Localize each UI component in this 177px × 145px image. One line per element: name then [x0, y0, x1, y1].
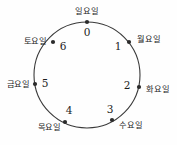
cycle-node-2: 2화요일 [124, 79, 170, 94]
node-index-1: 1 [115, 40, 122, 52]
cycle-node-0: 0일요일 [75, 6, 98, 39]
node-label-2: 화요일 [146, 84, 169, 94]
node-dot-0 [85, 20, 89, 24]
node-index-4: 4 [66, 104, 73, 116]
node-dot-2 [137, 85, 141, 89]
node-dot-5 [33, 82, 37, 86]
node-label-5: 금요일 [7, 79, 30, 89]
node-label-6: 토요일 [24, 36, 47, 46]
weekday-cycle-diagram: 0일요일1월요일2화요일3수요일4목요일5금요일6토요일 [0, 0, 177, 145]
node-index-0: 0 [84, 26, 91, 38]
node-label-3: 수요일 [119, 120, 142, 130]
cycle-node-1: 1월요일 [115, 34, 161, 53]
node-dot-1 [127, 40, 131, 44]
node-dot-6 [51, 40, 55, 44]
cycle-node-5: 5금요일 [7, 77, 49, 89]
node-index-3: 3 [107, 103, 114, 115]
node-dot-3 [110, 118, 114, 122]
node-layer: 0일요일1월요일2화요일3수요일4목요일5금요일6토요일 [7, 6, 170, 132]
cycle-diagram-canvas: 0일요일1월요일2화요일3수요일4목요일5금요일6토요일 [0, 0, 177, 145]
node-dot-4 [63, 120, 67, 124]
node-label-0: 일요일 [75, 6, 98, 16]
node-index-5: 5 [42, 77, 49, 89]
cycle-node-6: 6토요일 [24, 36, 67, 53]
node-label-1: 월요일 [137, 34, 160, 44]
node-label-4: 목요일 [38, 122, 61, 132]
node-index-6: 6 [60, 40, 67, 52]
cycle-node-3: 3수요일 [107, 103, 143, 130]
node-index-2: 2 [124, 79, 131, 91]
